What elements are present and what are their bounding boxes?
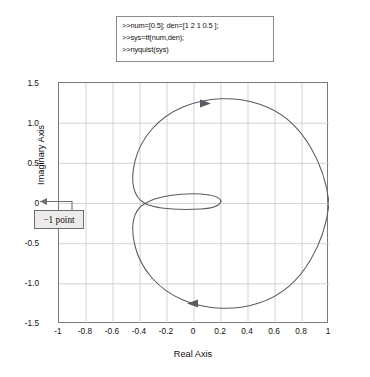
minus-one-point-label: −1 point <box>43 215 74 225</box>
code-line-3: >>nyquist(sys) <box>122 44 268 56</box>
ytick-label-3: 0.5 <box>0 158 39 168</box>
x-axis-label: Real Axis <box>133 349 253 359</box>
ytick-label-4: 0 <box>0 198 39 208</box>
nyquist-curve-svg <box>59 83 329 324</box>
matlab-code-box: >>num=[0.5]; den=[1 2 1 0.5 ]; >>sys=tf(… <box>116 16 274 62</box>
ytick-label-6: -1.0 <box>0 278 39 288</box>
minus-one-point-annotation: −1 point <box>34 210 84 229</box>
code-line-1: >>num=[0.5]; den=[1 2 1 0.5 ]; <box>122 20 268 32</box>
contour-inner-loop-lower <box>145 201 221 209</box>
contour-inner-loop-upper <box>145 194 221 204</box>
plot-area <box>58 82 328 323</box>
ytick-label-5: -0.5 <box>0 238 39 248</box>
direction-arrow-bottom-icon <box>187 300 198 308</box>
y-axis-label: Imaginary Axis <box>36 95 46 215</box>
xtick-label-11: 1 <box>308 326 348 336</box>
ytick-label-7: -1.5 <box>0 318 39 328</box>
contour-upper-branch <box>133 99 329 204</box>
ytick-label-1: 1.5 <box>0 78 39 88</box>
ytick-label-2: 1.0 <box>0 118 39 128</box>
contour-lower-branch <box>133 204 329 309</box>
code-line-2: >>sys=tf(num,den); <box>122 32 268 44</box>
nyquist-figure: >>num=[0.5]; den=[1 2 1 0.5 ]; >>sys=tf(… <box>0 0 370 377</box>
